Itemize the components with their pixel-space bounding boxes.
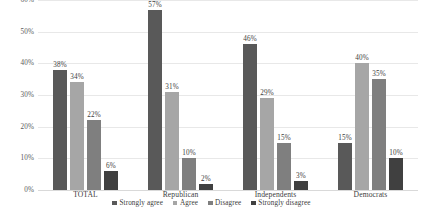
bar-slot: 22%: [87, 0, 101, 190]
bar-cluster: 46%29%15%3%: [243, 0, 308, 190]
bar-slot: 40%: [355, 0, 369, 190]
bar[interactable]: 57%: [148, 10, 162, 191]
bar-value-label: 46%: [243, 35, 256, 43]
bar-slot: 29%: [260, 0, 274, 190]
bar-slot: 34%: [70, 0, 84, 190]
bar-value-label: 38%: [53, 61, 66, 69]
legend-swatch-icon: [251, 201, 256, 206]
bar-value-label: 22%: [87, 111, 100, 119]
plot-wrapper: 60%50%40%30%20%10%0% 38%34%22%6%57%31%10…: [0, 0, 423, 190]
y-axis-tick-label: 60%: [21, 0, 34, 4]
bar-value-label: 29%: [260, 89, 273, 97]
bar-value-label: 10%: [182, 149, 195, 157]
bar[interactable]: 38%: [53, 70, 67, 190]
legend-label: Disagree: [215, 199, 241, 207]
legend-item[interactable]: Agree: [173, 199, 198, 207]
legend-swatch-icon: [112, 201, 117, 206]
bar-group: 46%29%15%3%: [228, 0, 323, 190]
bar-cluster: 38%34%22%6%: [53, 0, 118, 190]
bar[interactable]: 10%: [182, 158, 196, 190]
y-axis-tick-label: 50%: [21, 28, 34, 36]
legend-item[interactable]: Strongly agree: [112, 199, 163, 207]
bar-value-label: 3%: [296, 172, 306, 180]
bar-slot: 38%: [53, 0, 67, 190]
bar[interactable]: 29%: [260, 98, 274, 190]
legend-swatch-icon: [208, 201, 213, 206]
bar[interactable]: 46%: [243, 44, 257, 190]
bar-slot: 2%: [199, 0, 213, 190]
legend-item[interactable]: Strongly disagree: [251, 199, 310, 207]
bar-slot: 6%: [104, 0, 118, 190]
bar-slot: 10%: [182, 0, 196, 190]
bar-value-label: 2%: [201, 175, 211, 183]
bar-slot: 3%: [294, 0, 308, 190]
bar[interactable]: 34%: [70, 82, 84, 190]
bar-slot: 15%: [277, 0, 291, 190]
bar-value-label: 40%: [355, 54, 368, 62]
bar[interactable]: 31%: [165, 92, 179, 190]
bar-slot: 46%: [243, 0, 257, 190]
bar-value-label: 15%: [277, 134, 290, 142]
bar-value-label: 6%: [106, 162, 116, 170]
bar[interactable]: 15%: [277, 143, 291, 191]
bar-value-label: 31%: [165, 83, 178, 91]
y-axis-tick-label: 40%: [21, 59, 34, 67]
legend-item[interactable]: Disagree: [208, 199, 241, 207]
bar[interactable]: 3%: [294, 181, 308, 191]
bar[interactable]: 22%: [87, 120, 101, 190]
y-axis-tick-label: 0%: [24, 186, 34, 194]
bar-value-label: 10%: [389, 149, 402, 157]
bar-value-label: 15%: [338, 134, 351, 142]
y-axis: 60%50%40%30%20%10%0%: [0, 0, 38, 190]
bar-group: 57%31%10%2%: [133, 0, 228, 190]
bar-slot: 15%: [338, 0, 352, 190]
bar-value-label: 34%: [70, 73, 83, 81]
bar-slot: 57%: [148, 0, 162, 190]
bar-value-label: 57%: [148, 1, 161, 9]
y-axis-tick-label: 30%: [21, 91, 34, 99]
bar-slot: 31%: [165, 0, 179, 190]
bar[interactable]: 35%: [372, 79, 386, 190]
bar-cluster: 57%31%10%2%: [148, 0, 213, 190]
bar-group: 38%34%22%6%: [38, 0, 133, 190]
bar-slot: 10%: [389, 0, 403, 190]
bar-cluster: 15%40%35%10%: [338, 0, 403, 190]
bar-group: 15%40%35%10%: [323, 0, 418, 190]
bar[interactable]: 40%: [355, 63, 369, 190]
bar-slot: 35%: [372, 0, 386, 190]
legend-swatch-icon: [173, 201, 178, 206]
plot-area: 38%34%22%6%57%31%10%2%46%29%15%3%15%40%3…: [38, 0, 418, 190]
legend-label: Strongly disagree: [258, 199, 310, 207]
legend-label: Strongly agree: [119, 199, 163, 207]
y-axis-tick-label: 10%: [21, 154, 34, 162]
bar[interactable]: 15%: [338, 143, 352, 191]
bar-chart: 60%50%40%30%20%10%0% 38%34%22%6%57%31%10…: [0, 0, 423, 218]
chart-legend: Strongly agreeAgreeDisagreeStrongly disa…: [0, 196, 423, 210]
bar[interactable]: 10%: [389, 158, 403, 190]
legend-label: Agree: [180, 199, 198, 207]
y-axis-tick-label: 20%: [21, 123, 34, 131]
bar[interactable]: 6%: [104, 171, 118, 190]
bar-value-label: 35%: [372, 70, 385, 78]
bar-groups: 38%34%22%6%57%31%10%2%46%29%15%3%15%40%3…: [38, 0, 418, 190]
